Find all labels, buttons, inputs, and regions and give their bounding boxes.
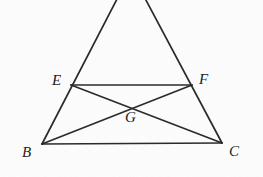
segment-base-BC [42, 143, 222, 144]
geometry-figure: E F G B C [0, 0, 263, 177]
vertex-label-E: E [52, 73, 61, 88]
vertex-label-B: B [22, 145, 31, 160]
vertex-label-F: F [199, 72, 208, 87]
vertex-label-C: C [229, 144, 239, 159]
figure-canvas [0, 0, 263, 177]
vertex-label-G: G [125, 110, 136, 125]
paper-grain-overlay [0, 0, 263, 177]
